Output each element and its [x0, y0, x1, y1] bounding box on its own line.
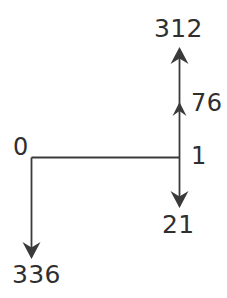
diagram-canvas: 312 76 1 0 21 336: [0, 0, 227, 298]
node-label-junction: 1: [191, 144, 207, 168]
node-label-mid: 76: [191, 91, 222, 115]
node-label-down-right: 21: [162, 212, 195, 237]
node-label-origin: 0: [13, 135, 29, 159]
node-label-down-left: 336: [12, 262, 61, 287]
node-label-top: 312: [154, 16, 203, 41]
